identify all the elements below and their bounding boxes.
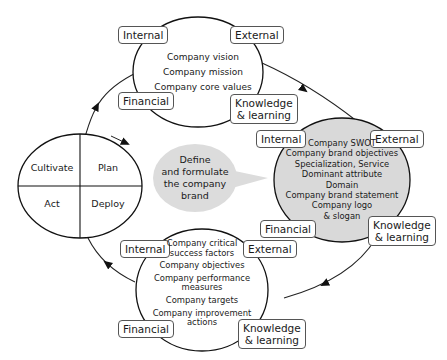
bubble-line: brand xyxy=(155,190,235,202)
learning-line: & learning xyxy=(235,109,293,121)
right-financial-label: Financial xyxy=(260,220,316,238)
quadrant-plan: Plan xyxy=(82,162,134,173)
item-brand-statement: Company brand statement xyxy=(282,190,402,200)
top-knowledge-label: Knowledge & learning xyxy=(230,94,298,124)
bubble-line: the company xyxy=(155,178,235,190)
item-improvement-2: actions xyxy=(150,318,254,328)
knowledge-line: Knowledge xyxy=(235,97,293,109)
item-mission: Company mission xyxy=(148,65,258,80)
arc-right-bottom xyxy=(284,238,376,298)
learning-line: & learning xyxy=(243,334,301,346)
center-bubble-text: Define and formulate the company brand xyxy=(155,154,235,202)
item-logo: Company logo xyxy=(282,200,402,210)
item-swot: Company SWOT xyxy=(282,138,402,148)
item-vision: Company vision xyxy=(148,50,258,65)
item-slogan: & slogan xyxy=(282,211,402,221)
quadrant-deploy: Deploy xyxy=(82,198,134,209)
item-targets: Company targets xyxy=(150,296,254,306)
learning-line: & learning xyxy=(373,231,431,243)
top-circle-items: Company vision Company mission Company c… xyxy=(148,50,258,95)
item-dominant-attribute: Dominant attribute xyxy=(282,169,402,179)
arrow-bottom-left xyxy=(105,262,109,265)
arrow-top-right xyxy=(302,88,306,91)
item-objectives: Company objectives xyxy=(150,261,254,271)
item-csf-2: success factors xyxy=(150,249,254,259)
top-internal-label: Internal xyxy=(118,26,168,44)
item-brand-objectives: Company brand objectives xyxy=(282,148,402,158)
quadrant-cultivate: Cultivate xyxy=(26,162,78,173)
right-circle-items: Company SWOT Company brand objectives Sp… xyxy=(282,138,402,221)
bubble-line: and formulate xyxy=(155,166,235,178)
item-specialization: Specialization, Service xyxy=(282,159,402,169)
item-performance-2: measures xyxy=(150,283,254,293)
bottom-circle-items: Company critical success factors Company… xyxy=(150,239,254,328)
quadrant-act: Act xyxy=(26,198,78,209)
item-domain: Domain xyxy=(282,180,402,190)
item-core-values: Company core values xyxy=(148,80,258,95)
bubble-line: Define xyxy=(155,154,235,166)
top-external-label: External xyxy=(230,26,284,44)
